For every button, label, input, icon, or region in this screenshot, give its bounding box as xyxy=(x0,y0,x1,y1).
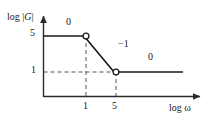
magnitude-asymptote-curve xyxy=(44,36,184,72)
x-tick-label-1: 1 xyxy=(83,101,88,111)
breakpoint-marker-omega-1 xyxy=(83,33,89,39)
y-axis-title-symbol: G xyxy=(24,11,31,22)
breakpoint-marker-omega-5 xyxy=(113,69,119,75)
y-axis-title-prefix: log | xyxy=(7,11,24,22)
y-axis-title-suffix: | xyxy=(32,11,34,22)
y-tick-label-1: 1 xyxy=(31,65,36,75)
slope-annotation-last: 0 xyxy=(148,52,153,62)
slope-annotation-middle: −1 xyxy=(118,39,129,49)
x-tick-label-5: 5 xyxy=(112,101,117,111)
x-axis-title-symbol: ω xyxy=(184,102,191,113)
x-axis-title-prefix: log xyxy=(169,102,184,113)
slope-annotation-first: 0 xyxy=(66,17,71,27)
bode-magnitude-plot-figure: log |G| log ω 5 1 1 5 0 −1 0 xyxy=(0,0,216,123)
x-axis-title: log ω xyxy=(169,103,191,113)
y-axis-title: log |G| xyxy=(7,12,34,22)
y-tick-label-5: 5 xyxy=(30,28,35,38)
